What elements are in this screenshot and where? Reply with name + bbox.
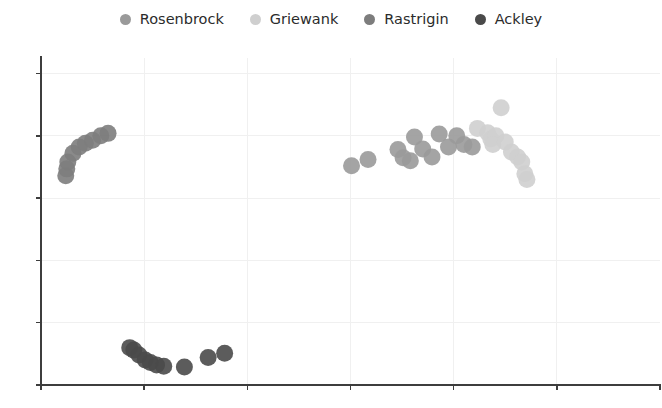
data-point — [360, 151, 377, 168]
scatter-plot-figure: Rosenbrock Griewank Rastrigin Ackley — [0, 0, 662, 408]
data-point — [100, 125, 117, 142]
data-point — [402, 152, 419, 169]
data-point — [176, 358, 193, 375]
series-rastrigin — [57, 125, 116, 184]
data-point — [464, 139, 481, 156]
data-points — [57, 99, 535, 375]
data-point — [493, 99, 510, 116]
data-point — [424, 149, 441, 166]
plot-area — [0, 0, 662, 408]
data-point — [343, 157, 360, 174]
data-point — [518, 171, 535, 188]
data-point — [155, 358, 172, 375]
series-ackley — [121, 339, 233, 375]
data-point — [216, 345, 233, 362]
gridlines — [41, 58, 660, 385]
plot-svg — [0, 0, 662, 408]
data-point — [200, 349, 217, 366]
series-rosenbrock — [343, 125, 481, 174]
